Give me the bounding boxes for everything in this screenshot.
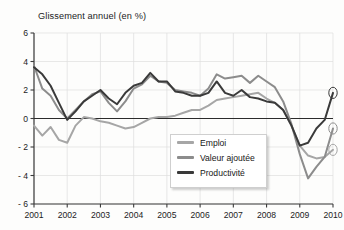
svg-text:- 4: - 4: [18, 171, 28, 181]
svg-text:6: 6: [23, 28, 28, 38]
chart-legend: Emploi Valeur ajoutée Productivité: [170, 134, 267, 188]
y-tick-labels: 6420- 2- 4- 6: [18, 28, 28, 209]
legend-label-valeur-ajoutee: Valeur ajoutée: [200, 153, 255, 163]
legend-swatch-valeur-ajoutee: [177, 156, 194, 159]
legend-item-productivite: Productivité: [171, 165, 266, 180]
x-axis: [34, 204, 333, 208]
legend-swatch-productivite: [177, 171, 194, 174]
legend-label-productivite: Productivité: [200, 168, 245, 178]
y-axis: [31, 33, 35, 204]
svg-text:2008: 2008: [257, 210, 276, 220]
svg-text:0: 0: [23, 114, 28, 124]
legend-swatch-emploi: [177, 141, 194, 144]
svg-text:2007: 2007: [224, 210, 243, 220]
legend-item-valeur-ajoutee: Valeur ajoutée: [171, 150, 266, 165]
svg-text:2006: 2006: [191, 210, 210, 220]
svg-text:2001: 2001: [24, 210, 43, 220]
legend-label-emploi: Emploi: [200, 138, 226, 148]
chart-plot-area: 6420- 2- 4- 6 20012002200320042005200620…: [0, 0, 344, 230]
svg-text:- 2: - 2: [18, 142, 28, 152]
chart-container: Glissement annuel (en %) 6420- 2- 4- 6 2…: [0, 0, 344, 230]
svg-text:4: 4: [23, 57, 28, 67]
svg-text:2002: 2002: [58, 210, 77, 220]
svg-text:2009: 2009: [290, 210, 309, 220]
legend-item-emploi: Emploi: [171, 135, 266, 150]
svg-text:2004: 2004: [124, 210, 143, 220]
svg-text:2: 2: [23, 85, 28, 95]
x-tick-labels: 2001200220032004200520062007200820092010: [24, 210, 342, 220]
svg-text:2010: 2010: [323, 210, 342, 220]
svg-text:2005: 2005: [157, 210, 176, 220]
svg-text:2003: 2003: [91, 210, 110, 220]
svg-text:- 6: - 6: [18, 199, 28, 209]
